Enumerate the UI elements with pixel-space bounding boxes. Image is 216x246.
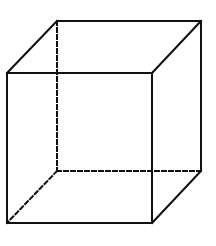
cube-diagram: Cube	[0, 0, 216, 246]
bottom-right-depth-edge	[152, 171, 201, 223]
cube-figure	[0, 0, 216, 246]
bottom-left-depth-edge-hidden	[7, 171, 57, 223]
top-right-depth-edge	[152, 21, 201, 73]
top-left-depth-edge	[7, 21, 57, 73]
